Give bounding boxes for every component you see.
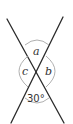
label-angle-30: 30°	[27, 93, 45, 104]
label-angle-c: c	[22, 65, 28, 78]
label-angle-a: a	[33, 45, 40, 58]
angle-diagram: a c b 30°	[0, 0, 73, 124]
line-1	[7, 19, 64, 123]
label-angle-b: b	[45, 65, 52, 78]
